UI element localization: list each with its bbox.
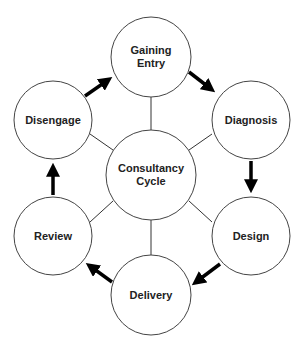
label-entry: Entry bbox=[137, 57, 165, 70]
label-delivery: Delivery bbox=[111, 285, 191, 305]
label-review: Review bbox=[14, 226, 92, 246]
arrow-entry-to-diagnosis bbox=[189, 72, 211, 89]
arrow-disengage-to-entry bbox=[85, 80, 108, 96]
label-diagnosis: Diagnosis bbox=[212, 110, 290, 130]
label-gaining-entry: Gaining Entry bbox=[111, 37, 191, 77]
label-gaining: Gaining bbox=[131, 44, 172, 57]
arrow-design-to-delivery bbox=[196, 264, 220, 282]
arrow-delivery-to-review bbox=[90, 266, 112, 282]
label-disengage: Disengage bbox=[14, 110, 92, 130]
center-label-line1: Consultancy bbox=[118, 162, 184, 175]
label-design: Design bbox=[212, 226, 290, 246]
center-label: Consultancy Cycle bbox=[106, 155, 196, 195]
center-label-line2: Cycle bbox=[136, 175, 165, 188]
